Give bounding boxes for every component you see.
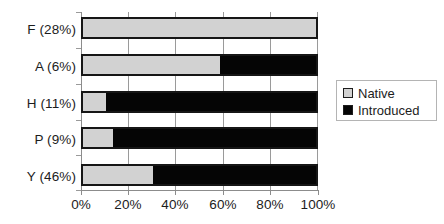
- stacked-bar-chart: F (28%) A (6%) H (11%) P (9%) Y (46%): [0, 0, 444, 224]
- x-axis-tick-label-100: 100%: [301, 197, 336, 212]
- bar-segment-native: [83, 93, 106, 111]
- legend-item-native[interactable]: Native: [343, 85, 436, 101]
- x-axis-tick-40: [175, 190, 176, 195]
- y-axis-label-1: A (6%): [2, 59, 76, 74]
- bar-segment-introduced: [113, 129, 316, 147]
- bar-segment-native: [83, 129, 113, 147]
- bar-row[interactable]: [81, 127, 318, 149]
- x-axis-tick-0: [81, 190, 82, 195]
- bar-row[interactable]: [81, 91, 318, 113]
- bar-segment-introduced: [220, 56, 316, 74]
- legend-label-native: Native: [358, 87, 395, 100]
- bar-segment-introduced: [153, 166, 316, 184]
- x-axis-tick-label-0: 0%: [71, 197, 91, 212]
- x-axis-tick-label-20: 20%: [114, 197, 141, 212]
- bar-segment-native: [83, 19, 316, 37]
- x-axis-tick-label-60: 60%: [209, 197, 236, 212]
- native-swatch-icon: [343, 88, 353, 98]
- plot-area: [81, 12, 318, 190]
- y-axis-label-4: Y (46%): [2, 169, 76, 184]
- x-axis-tick-20: [128, 190, 129, 195]
- x-axis-line: [81, 190, 319, 191]
- legend-item-introduced[interactable]: Introduced: [343, 102, 436, 118]
- y-axis-labels: F (28%) A (6%) H (11%) P (9%) Y (46%): [0, 0, 76, 224]
- bar-row[interactable]: [81, 164, 318, 186]
- bar-segment-native: [83, 166, 153, 184]
- y-axis-label-0: F (28%): [2, 22, 76, 37]
- x-axis-tick-label-40: 40%: [161, 197, 188, 212]
- y-axis-label-2: H (11%): [2, 96, 76, 111]
- introduced-swatch-icon: [343, 105, 353, 115]
- x-axis-tick-80: [270, 190, 271, 195]
- bar-segment-introduced: [106, 93, 316, 111]
- y-axis-label-3: P (9%): [2, 132, 76, 147]
- x-axis-tick-60: [223, 190, 224, 195]
- x-axis-tick-label-80: 80%: [256, 197, 283, 212]
- bar-row[interactable]: [81, 17, 318, 39]
- legend-label-introduced: Introduced: [358, 104, 419, 117]
- bar-row[interactable]: [81, 54, 318, 76]
- bar-segment-native: [83, 56, 220, 74]
- chart-legend: Native Introduced: [336, 80, 437, 121]
- x-axis-tick-100: [318, 190, 319, 195]
